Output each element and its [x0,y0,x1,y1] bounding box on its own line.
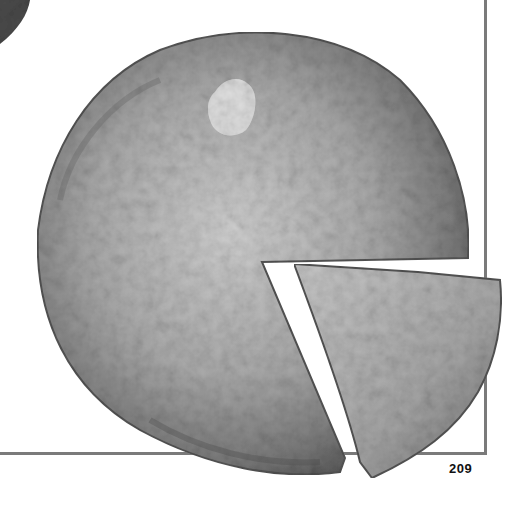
page-number: 209 [449,461,472,476]
corner-object [0,0,30,44]
frittata-photo [0,0,514,508]
